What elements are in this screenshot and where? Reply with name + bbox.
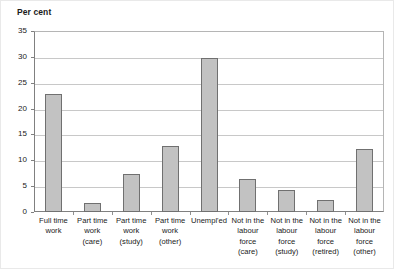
bar <box>162 146 179 212</box>
y-axis-tick-label: 35 <box>3 27 27 35</box>
bar <box>84 203 101 212</box>
x-axis-tick-label: Part time work (other) <box>151 216 190 247</box>
x-axis-tick-mark <box>151 212 152 215</box>
y-axis-tick-label: 20 <box>3 105 27 113</box>
x-axis-tick-mark <box>267 212 268 215</box>
bar <box>356 149 373 212</box>
y-axis-tick-label: 10 <box>3 156 27 164</box>
y-axis-tick-mark <box>31 212 34 213</box>
x-axis-tick-label: Not in the labour force (study) <box>267 216 306 257</box>
x-axis-tick-mark <box>73 212 74 215</box>
x-axis-tick-label: Part time work (care) <box>73 216 112 247</box>
bar <box>201 58 218 212</box>
chart-figure: Per cent 05101520253035 Full time workPa… <box>0 0 394 269</box>
bar <box>278 190 295 212</box>
x-axis-tick-mark <box>345 212 346 215</box>
bar <box>239 179 256 212</box>
x-axis-tick-mark <box>228 212 229 215</box>
x-axis-tick-mark <box>306 212 307 215</box>
x-axis-tick-label: Not in the labour force (care) <box>228 216 267 257</box>
x-axis-tick-label: Not in the labour force (retired) <box>306 216 345 257</box>
y-axis-tick-label: 30 <box>3 53 27 61</box>
y-axis-tick-label: 25 <box>3 79 27 87</box>
y-axis-tick-label: 5 <box>3 182 27 190</box>
x-axis-tick-label: Full time work <box>34 216 73 237</box>
x-axis-tick-mark <box>190 212 191 215</box>
y-axis-tick-label: 0 <box>3 208 27 216</box>
bar <box>45 94 62 212</box>
bar <box>317 200 334 212</box>
x-axis-tick-mark <box>112 212 113 215</box>
bar <box>123 174 140 212</box>
x-axis-tick-label: Unempl'ed <box>190 216 229 226</box>
x-axis-tick-label: Part time work (study) <box>112 216 151 247</box>
y-axis-title: Per cent <box>17 7 51 17</box>
x-axis-tick-label: Not in the labour force (other) <box>345 216 384 257</box>
y-axis-tick-label: 15 <box>3 130 27 138</box>
